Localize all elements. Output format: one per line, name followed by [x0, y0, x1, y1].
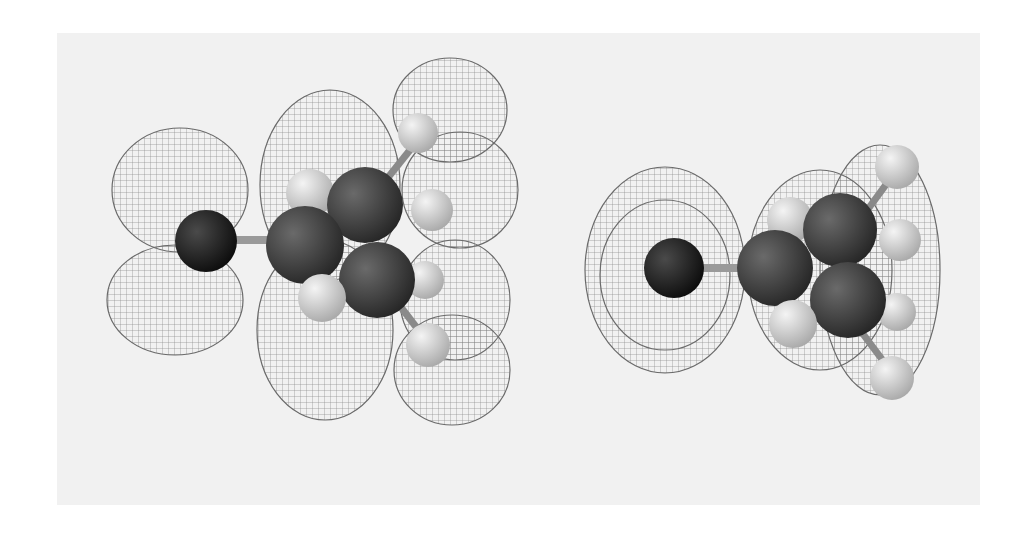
left-heavy-atom [175, 210, 237, 272]
orbital-figure [0, 0, 1033, 541]
left-orbital-panel [107, 58, 518, 425]
right-heavy-atom [644, 238, 704, 298]
right-orbital-panel [585, 145, 940, 400]
